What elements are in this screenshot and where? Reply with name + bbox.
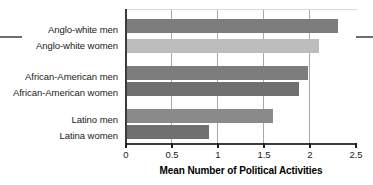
category-label-anglo-white-men: Anglo-white men	[0, 24, 118, 35]
category-axis-labels: Anglo-white men Anglo-white women Africa…	[0, 10, 122, 143]
category-label-anglo-white-women: Anglo-white women	[0, 40, 118, 51]
bar-latino-men	[126, 109, 273, 123]
bar-african-american-men	[126, 66, 308, 80]
x-tick-label-1: 1	[215, 149, 220, 160]
x-tick-0-5	[171, 143, 173, 148]
y-axis-line	[125, 9, 127, 144]
x-axis-title: Mean Number of Political Activities	[126, 165, 356, 176]
x-tick-label-0-5: 0.5	[165, 149, 178, 160]
x-tick-1	[217, 143, 219, 148]
x-tick-2-5	[355, 143, 357, 148]
category-label-african-american-men: African-American men	[0, 71, 118, 82]
x-tick-2	[309, 143, 311, 148]
x-tick-label-1-5: 1.5	[257, 149, 270, 160]
plot-area	[126, 10, 356, 143]
bar-latina-women	[126, 125, 209, 139]
category-label-african-american-women: African-American women	[0, 87, 118, 98]
bar-anglo-white-men	[126, 19, 338, 33]
x-axis-line	[125, 143, 356, 145]
x-tick-label-0: 0	[123, 149, 128, 160]
x-tick-label-2: 2	[307, 149, 312, 160]
x-tick-1-5	[263, 143, 265, 148]
chart-screenshot: Anglo-white men Anglo-white women Africa…	[0, 0, 373, 185]
x-tick-label-2-5: 2.5	[349, 149, 362, 160]
category-label-latino-men: Latino men	[0, 114, 118, 125]
x-tick-0	[125, 143, 127, 148]
bar-anglo-white-women	[126, 39, 319, 53]
category-label-latina-women: Latina women	[0, 130, 118, 141]
bar-african-american-women	[126, 82, 299, 96]
